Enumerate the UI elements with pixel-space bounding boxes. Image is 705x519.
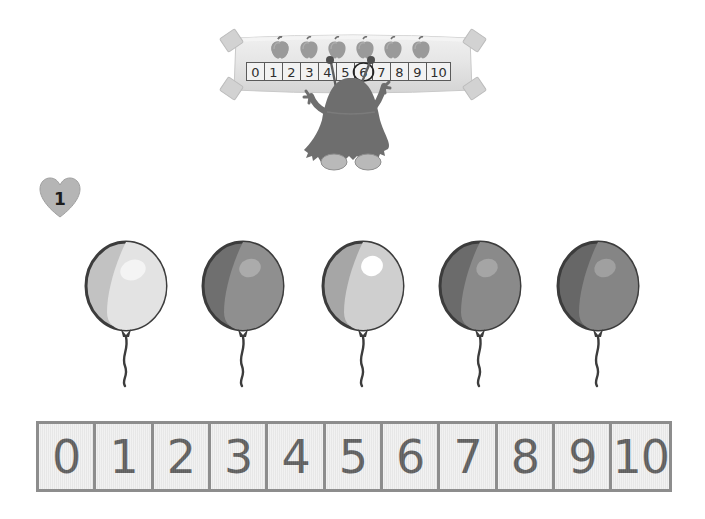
number-cell-label: 0 — [52, 434, 80, 480]
number-cell-label: 5 — [339, 434, 367, 480]
number-cell[interactable]: 1 — [96, 424, 153, 489]
number-cell[interactable]: 7 — [440, 424, 497, 489]
number-cell[interactable]: 9 — [555, 424, 612, 489]
svg-text:10: 10 — [430, 65, 447, 80]
number-cell[interactable]: 3 — [211, 424, 268, 489]
monster-character — [296, 54, 406, 172]
number-cell-label: 2 — [167, 434, 195, 480]
number-cell-label: 7 — [453, 434, 481, 480]
balloon-1: 1 — [63, 238, 193, 388]
number-line-strip: 0 1 2 3 4 5 6 7 8 9 10 — [36, 421, 672, 492]
number-line-banner: 012 345 678 910 — [222, 30, 484, 98]
worksheet-page: 012 345 678 910 — [0, 0, 705, 519]
number-cell-label: 3 — [224, 434, 252, 480]
svg-text:1: 1 — [269, 65, 277, 80]
svg-text:2: 2 — [287, 65, 295, 80]
balloon-5: 5 — [535, 238, 665, 388]
number-cell[interactable]: 10 — [612, 424, 669, 489]
exercise-number-label: 1 — [38, 177, 82, 219]
number-cell-label: 4 — [281, 434, 309, 480]
exercise-number-badge: 1 — [38, 177, 82, 219]
balloon-4: 4 — [417, 238, 547, 388]
number-cell-label: 8 — [511, 434, 539, 480]
number-cell[interactable]: 6 — [383, 424, 440, 489]
balloon-2: 2 — [180, 238, 310, 388]
svg-text:9: 9 — [413, 65, 421, 80]
balloon-3: 3 — [300, 238, 430, 388]
number-cell[interactable]: 5 — [326, 424, 383, 489]
number-cell-label: 10 — [612, 434, 669, 480]
number-cell[interactable]: 0 — [39, 424, 96, 489]
number-cell[interactable]: 4 — [268, 424, 325, 489]
number-cell[interactable]: 2 — [154, 424, 211, 489]
number-cell-label: 6 — [396, 434, 424, 480]
number-cell-label: 1 — [109, 434, 137, 480]
svg-text:0: 0 — [251, 65, 259, 80]
number-cell[interactable]: 8 — [498, 424, 555, 489]
number-cell-label: 9 — [568, 434, 596, 480]
